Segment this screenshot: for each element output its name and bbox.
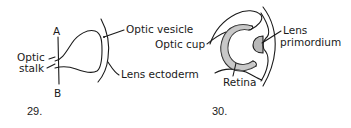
leader-lens-primordium (262, 31, 281, 43)
lens-ectoderm-arc (98, 19, 109, 82)
optic-vesicle-outline (55, 31, 102, 73)
label-optic-vesicle: Optic vesicle (126, 23, 193, 35)
label-lens-line2: primordium (280, 36, 341, 48)
diagram-canvas: A B Optic vesicle Lens ectoderm Optic st… (0, 0, 351, 128)
figure-number-30: 30. (212, 105, 227, 117)
leader-optic-stalk-1 (49, 57, 55, 59)
label-a: A (53, 25, 61, 37)
label-lens-ectoderm: Lens ectoderm (121, 68, 199, 80)
figure-29: A B Optic vesicle Lens ectoderm Optic st… (17, 19, 199, 117)
figure-number-29: 29. (27, 105, 42, 117)
leader-dot (103, 36, 105, 38)
label-optic-cup: Optic cup (155, 38, 206, 50)
label-retina: Retina (223, 76, 256, 88)
label-optic-stalk-line2: stalk (19, 62, 45, 74)
label-b: B (54, 87, 61, 99)
leader-optic-stalk-2 (47, 64, 55, 68)
lens-primordium (253, 36, 263, 53)
leader-lens-ectoderm (108, 62, 119, 75)
label-lens-line1: Lens (283, 24, 307, 36)
